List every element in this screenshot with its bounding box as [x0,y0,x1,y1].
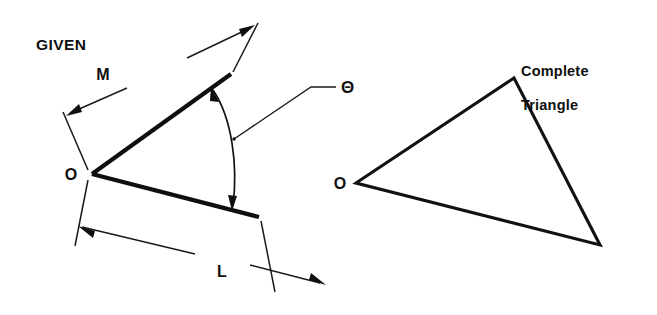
complete-triangle-panel: O Complete Triangle [334,63,600,245]
diagram-root: GIVEN M O [0,0,657,315]
m-extension-line-origin [63,112,88,170]
l-dimension-line-right [250,265,320,283]
theta-label: Θ [341,78,354,97]
given-vertex-label-o: O [65,166,77,183]
l-dimension-arrowhead-right [309,273,326,285]
given-title-label: GIVEN [36,36,86,53]
l-dimension-line-left [82,227,195,254]
m-dimension-line-right [187,29,248,58]
l-dimension-label: L [217,263,227,280]
m-dimension-arrowhead-left [66,104,82,116]
technical-diagram-svg: GIVEN M O [0,0,657,315]
l-dimension-group: L [75,180,326,292]
theta-leader-group: Θ [234,78,354,139]
l-extension-line-end [261,221,275,292]
m-dimension-label: M [96,66,109,83]
complete-triangle-vertex-label-o: O [334,175,346,192]
complete-triangle-note-line1: Complete [521,63,589,79]
given-panel: GIVEN M O [36,23,354,292]
angle-arc-group [210,86,237,211]
angle-arc [213,90,235,206]
complete-triangle-note-line2: Triangle [521,97,578,113]
given-ray-m [92,74,231,174]
m-dimension-group: M [63,23,258,170]
theta-leader-line [234,87,336,139]
l-extension-line-origin [75,180,88,246]
